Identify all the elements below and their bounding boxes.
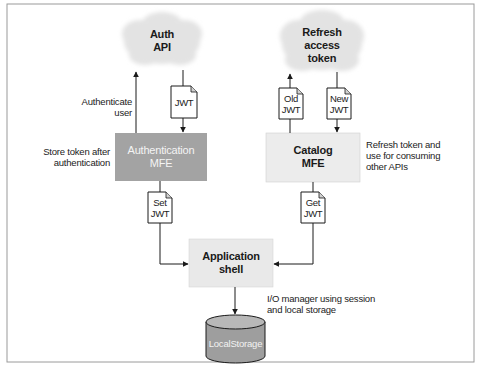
store-token-annotation: Store token after authentication [20, 146, 110, 168]
set-jwt-doc-label: Set JWT [148, 197, 172, 219]
get-jwt-doc-label: Get JWT [301, 197, 325, 219]
authenticate-user-annotation: Authenticate user [60, 96, 132, 118]
refresh-use-annotation: Refresh token and use for consuming othe… [366, 139, 466, 172]
io-manager-annotation: I/O manager using session and local stor… [267, 293, 407, 315]
application-shell-label: Application shell [189, 250, 273, 276]
catalog-mfe-label: Catalog MFE [266, 144, 360, 170]
diagram-canvas [0, 0, 477, 374]
old-jwt-doc-label: Old JWT [279, 93, 303, 115]
auth-api-label: Auth API [132, 28, 192, 54]
jwt-doc-label: JWT [171, 97, 197, 108]
authentication-mfe-label: Authentication MFE [115, 144, 207, 170]
new-jwt-doc-label: New JWT [327, 93, 351, 115]
refresh-token-label: Refresh access token [290, 26, 354, 65]
local-storage-label: LocalStorage [204, 337, 267, 350]
